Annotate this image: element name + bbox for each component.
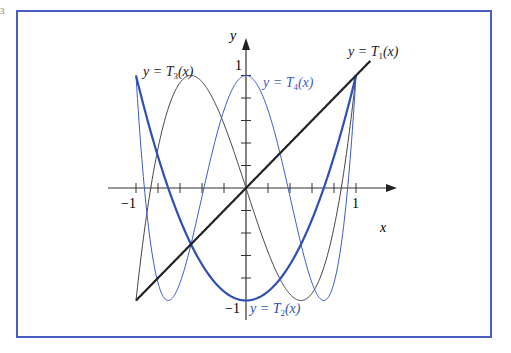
- t2-label: y = T2(x): [248, 301, 301, 318]
- axes: [108, 38, 397, 320]
- t3-label: y = T3(x): [141, 64, 194, 81]
- x-axis-label: x: [379, 220, 387, 235]
- t4-label: y = T4(x): [261, 75, 314, 92]
- x-tick-label-neg1: −1: [121, 196, 136, 211]
- chebyshev-plot: x y −1 1 1 −1 y = T1(x) y = T2(x) y = T3…: [0, 0, 511, 353]
- y-tick-label-1: 1: [235, 58, 242, 73]
- y-tick-label-neg1: −1: [225, 301, 240, 316]
- x-axis-arrow-icon: [386, 184, 397, 192]
- t1-label: y = T1(x): [346, 44, 399, 61]
- curves: [136, 61, 370, 301]
- y-axis-label: y: [228, 28, 237, 43]
- x-tick-label-1: 1: [352, 196, 359, 211]
- y-axis-arrow-icon: [242, 38, 250, 50]
- curve-t1: [136, 61, 370, 301]
